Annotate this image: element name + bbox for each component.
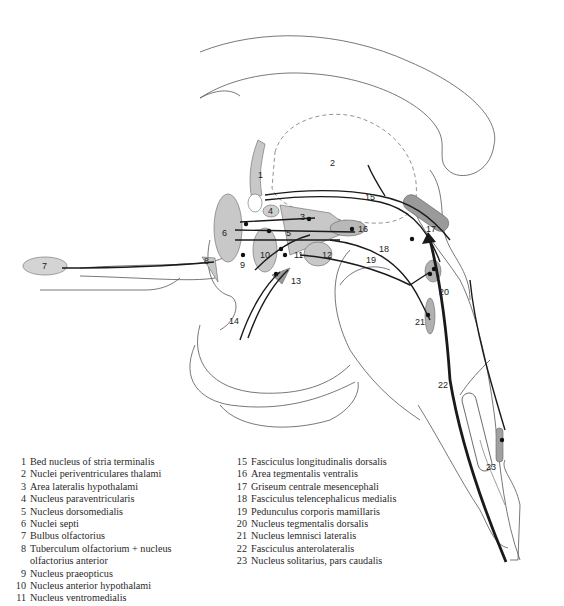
- legend-item: 10Nucleus anterior hypothalami: [10, 580, 171, 592]
- olfactory-tract-outline: [40, 240, 236, 330]
- legend-right-column: 15Fasciculus longitudinalis dorsalis 16A…: [231, 456, 396, 568]
- label-2: 2: [330, 158, 335, 168]
- legend-item: 1Bed nucleus of stria terminalis: [10, 456, 171, 468]
- label-18: 18: [379, 244, 389, 254]
- label-7: 7: [42, 261, 47, 271]
- label-16: 16: [358, 224, 368, 234]
- legend-left-column: 1Bed nucleus of stria terminalis 2Nuclei…: [10, 456, 171, 605]
- legend-item: 18Fasciculus telencephalicus medialis: [231, 493, 396, 505]
- legend-item: 17Griseum centrale mesencephali: [231, 481, 396, 493]
- legend-item: 2Nuclei periventriculares thalami: [10, 468, 171, 480]
- legend-item: 3Area lateralis hypothalami: [10, 481, 171, 493]
- legend-item: 7Bulbus olfactorius: [10, 530, 171, 542]
- legend-item: 4Nucleus paraventricularis: [10, 493, 171, 505]
- legend-item: 22Fasciculus anterolateralis: [231, 543, 396, 555]
- legend-item: 21Nucleus lemnisci lateralis: [231, 530, 396, 542]
- legend-item: 6Nuclei septi: [10, 518, 171, 530]
- pathway-olfactory: [62, 262, 214, 268]
- label-20: 20: [439, 287, 449, 297]
- label-11: 11: [294, 250, 303, 260]
- label-17: 17: [426, 224, 436, 234]
- label-1: 1: [258, 170, 263, 180]
- legend-item: 8Tuberculum olfactorium + nucleus: [10, 543, 171, 555]
- label-13: 13: [291, 276, 301, 286]
- label-3: 3: [300, 212, 305, 222]
- label-22: 22: [438, 380, 448, 390]
- legend-item: 5Nucleus dorsomedialis: [10, 506, 171, 518]
- cell-bodies: [241, 217, 504, 442]
- legend-item: 9Nucleus praeopticus: [10, 568, 171, 580]
- hemisphere-outline: [200, 36, 495, 176]
- label-23: 23: [486, 462, 496, 472]
- nucleus-2-small: [248, 194, 262, 212]
- label-21: 21: [415, 317, 425, 327]
- nucleus-6: [214, 194, 242, 262]
- legend-item: 19Pedunculus corporis mamillaris: [231, 506, 396, 518]
- label-5: 5: [286, 228, 291, 238]
- legend-item: 23Nucleus solitarius, pars caudalis: [231, 555, 396, 567]
- label-6: 6: [222, 228, 227, 238]
- nucleus-23: [496, 428, 503, 462]
- label-19: 19: [366, 255, 376, 265]
- legend-item-continuation: olfactorius anterior: [10, 555, 171, 567]
- legend-item: 11Nucleus ventromedialis: [10, 592, 171, 604]
- legend-item: 16Area tegmentalis ventralis: [231, 468, 396, 480]
- label-14: 14: [229, 316, 239, 326]
- label-4: 4: [268, 206, 273, 216]
- nuclei: [23, 140, 503, 462]
- label-8: 8: [204, 256, 209, 266]
- legend-item: 15Fasciculus longitudinalis dorsalis: [231, 456, 396, 468]
- label-9: 9: [240, 260, 245, 270]
- legend-item: 20Nucleus tegmentalis dorsalis: [231, 518, 396, 530]
- label-10: 10: [260, 250, 270, 260]
- label-15: 15: [365, 192, 375, 202]
- label-12: 12: [322, 250, 332, 260]
